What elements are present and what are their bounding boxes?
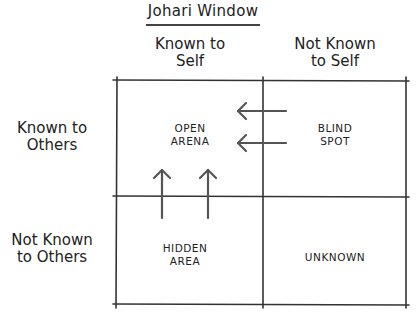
arrow-up-icon <box>154 170 170 218</box>
quadrant-hidden-area: HIDDEN AREA <box>145 242 225 268</box>
grid-line-bottom <box>113 304 409 305</box>
grid-line-middle-horizontal <box>113 196 409 197</box>
arrow-left-icon <box>238 103 286 119</box>
quadrant-label-line: UNKNOWN <box>290 251 380 264</box>
quadrant-label-line: OPEN <box>150 122 230 135</box>
quadrant-label-line: AREA <box>145 255 225 268</box>
quadrant-label-line: ARENA <box>150 135 230 148</box>
grid-line-left <box>116 77 117 308</box>
arrow-left-icon <box>238 135 286 151</box>
quadrant-label-line: HIDDEN <box>145 242 225 255</box>
quadrant-label-line: BLIND <box>295 122 375 135</box>
arrow-up-icon <box>200 170 216 218</box>
johari-grid <box>0 0 417 316</box>
grid-line-top <box>113 80 409 81</box>
quadrant-label-line: SPOT <box>295 135 375 148</box>
quadrant-blind-spot: BLIND SPOT <box>295 122 375 148</box>
quadrant-open-arena: OPEN ARENA <box>150 122 230 148</box>
quadrant-unknown: UNKNOWN <box>290 251 380 264</box>
